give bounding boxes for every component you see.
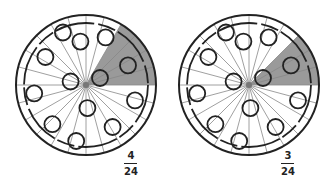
denominator: 24 [124,166,138,177]
topping [242,100,258,116]
topping [63,74,79,90]
fraction-bar [124,163,137,164]
denominator: 24 [281,166,295,177]
numerator: 4 [127,150,134,161]
topping [26,85,42,101]
topping [44,116,60,132]
topping [68,133,84,149]
fraction-right: 3 24 [281,150,295,177]
topping [261,29,277,45]
topping [189,85,205,101]
topping [37,49,53,65]
topping [235,34,251,50]
numerator: 3 [284,150,291,161]
pizza-center [83,82,89,88]
topping [92,70,108,86]
topping [290,92,306,108]
topping [226,74,242,90]
topping [255,70,271,86]
topping [55,25,71,41]
topping [79,100,95,116]
slice-line [249,85,267,153]
topping [231,133,247,149]
slice-line [86,85,104,153]
topping [283,57,299,73]
fraction-left: 4 24 [124,150,138,177]
topping [105,119,121,135]
topping [98,29,114,45]
topping [268,119,284,135]
topping [127,92,143,108]
topping [218,25,234,41]
topping [200,49,216,65]
pizza-center [246,82,252,88]
topping [72,34,88,50]
pizza-left [0,0,170,170]
topping [120,57,136,73]
pizza-right [163,0,333,170]
topping [207,116,223,132]
fraction-bar [281,163,294,164]
